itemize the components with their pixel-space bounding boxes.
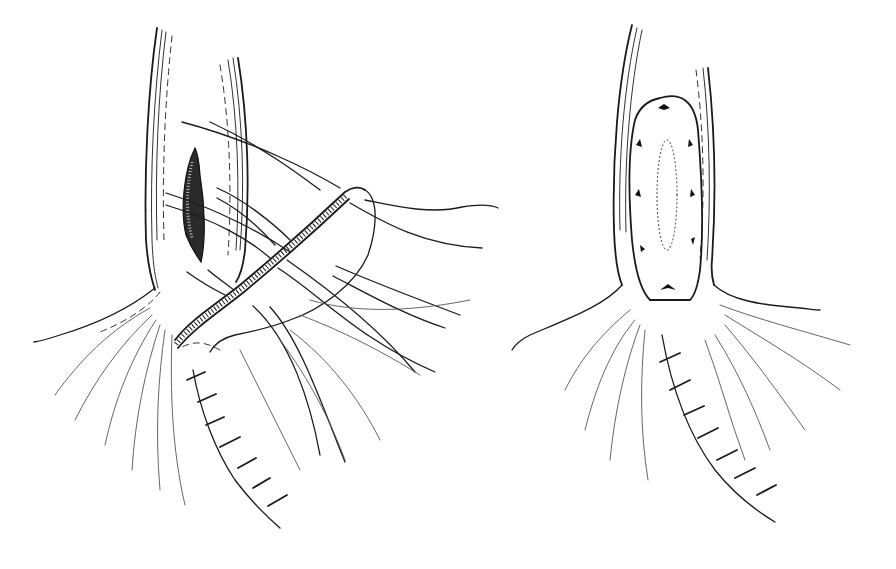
tissue-fibers-left	[55, 300, 470, 505]
patch-placement-drawing	[0, 0, 500, 569]
tissue-fibers-right	[565, 305, 850, 480]
interrupted-sutures	[635, 104, 695, 290]
patch-inner-outline	[657, 140, 677, 250]
stay-sutures	[166, 122, 498, 462]
left-illustration-panel	[0, 0, 500, 569]
running-suture-knots	[187, 372, 287, 506]
completed-closure-drawing	[500, 0, 896, 569]
right-illustration-panel	[500, 0, 896, 569]
patch-outline	[629, 96, 702, 300]
